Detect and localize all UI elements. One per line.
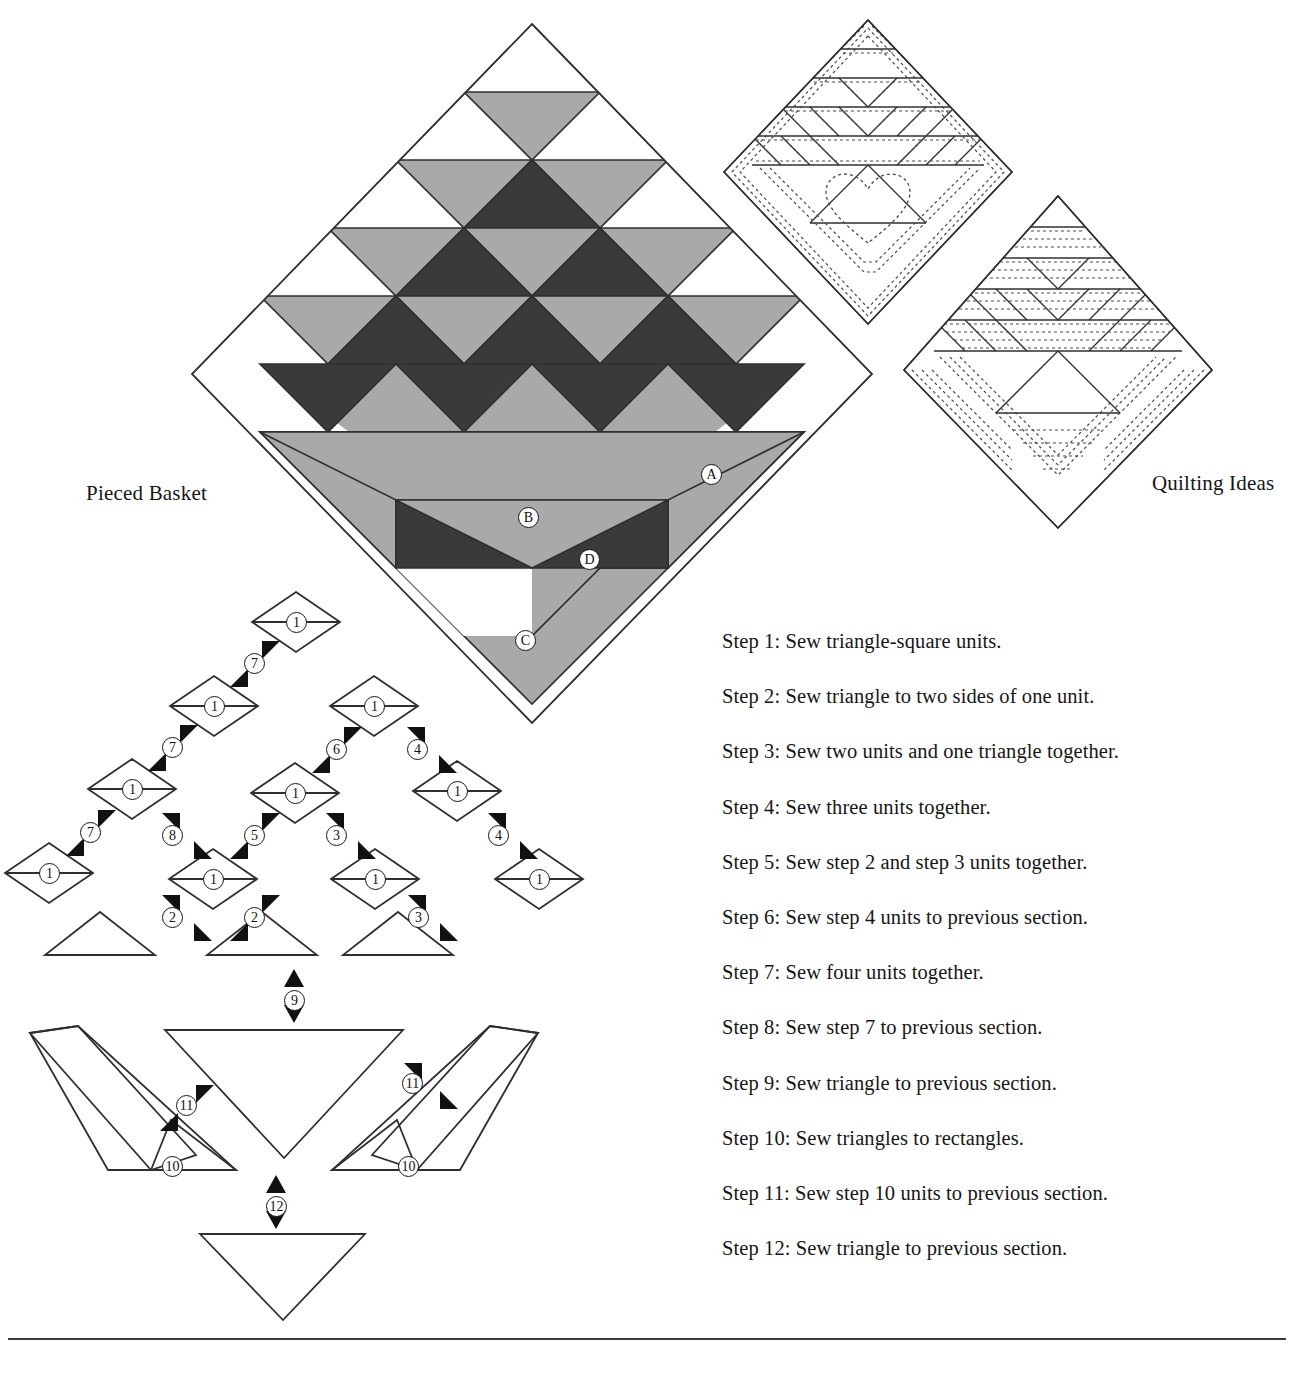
step-item: Step 1: Sew triangle-square units. <box>722 630 1282 653</box>
patch-label-d: D <box>579 549 600 570</box>
seam-step-marker: 3 <box>326 825 347 846</box>
unit-label: 1 <box>204 696 225 717</box>
unit-label: 1 <box>529 869 550 890</box>
unit-label: 1 <box>285 783 306 804</box>
base-triangle <box>200 1234 365 1320</box>
seam-step-marker: 6 <box>326 739 347 760</box>
seam-step-marker: 8 <box>162 825 183 846</box>
unit-label: 1 <box>447 781 468 802</box>
assembly-diagram <box>5 592 583 1320</box>
seam-step-marker: 11 <box>176 1095 197 1116</box>
unit-label: 1 <box>122 779 143 800</box>
loose-triangle <box>45 912 155 955</box>
step-item: Step 9: Sew triangle to previous section… <box>722 1072 1282 1095</box>
seam-arrows <box>66 641 538 1229</box>
step-item: Step 11: Sew step 10 units to previous s… <box>722 1182 1282 1205</box>
seam-step-marker: 7 <box>162 737 183 758</box>
seam-step-marker: 5 <box>244 825 265 846</box>
page-canvas: Pieced Basket Quilting Ideas A B C D 1 1… <box>0 0 1294 1377</box>
seam-step-marker: 2 <box>162 907 183 928</box>
step-item: Step 5: Sew step 2 and step 3 units toge… <box>722 851 1282 874</box>
quilting-ideas-label: Quilting Ideas <box>1152 471 1274 496</box>
step-item: Step 8: Sew step 7 to previous section. <box>722 1016 1282 1039</box>
step-item: Step 6: Sew step 4 units to previous sec… <box>722 906 1282 929</box>
seam-step-marker: 10 <box>162 1156 183 1177</box>
step-item: Step 3: Sew two units and one triangle t… <box>722 740 1282 763</box>
step-instructions-list: Step 1: Sew triangle-square units. Step … <box>722 630 1282 1292</box>
unit-label: 1 <box>203 869 224 890</box>
unit-label: 1 <box>365 869 386 890</box>
loose-triangle <box>343 912 453 955</box>
step-item: Step 10: Sew triangles to rectangles. <box>722 1127 1282 1150</box>
seam-step-marker: 2 <box>244 907 265 928</box>
pieced-basket-label: Pieced Basket <box>86 481 207 506</box>
handle-left <box>30 1026 236 1170</box>
seam-step-marker: 3 <box>408 907 429 928</box>
seam-step-marker: 9 <box>284 990 305 1011</box>
step-item: Step 12: Sew triangle to previous sectio… <box>722 1237 1282 1260</box>
patch-label-a: A <box>701 464 722 485</box>
patch-label-b: B <box>518 507 539 528</box>
seam-step-marker: 4 <box>407 739 428 760</box>
unit-label: 1 <box>364 696 385 717</box>
seam-step-marker: 11 <box>402 1073 423 1094</box>
seam-step-marker: 10 <box>398 1156 419 1177</box>
step-item: Step 2: Sew triangle to two sides of one… <box>722 685 1282 708</box>
seam-step-marker: 4 <box>488 825 509 846</box>
unit-label: 1 <box>286 612 307 633</box>
step-item: Step 7: Sew four units together. <box>722 961 1282 984</box>
patch-label-c: C <box>515 630 536 651</box>
handle-right <box>332 1026 538 1170</box>
seam-step-marker: 12 <box>266 1196 287 1217</box>
seam-step-marker: 7 <box>80 822 101 843</box>
rectangle-strip-left <box>30 1026 196 1170</box>
rectangle-strip-right <box>372 1026 538 1170</box>
unit-label: 1 <box>39 863 60 884</box>
seam-step-marker: 7 <box>244 653 265 674</box>
step-item: Step 4: Sew three units together. <box>722 796 1282 819</box>
